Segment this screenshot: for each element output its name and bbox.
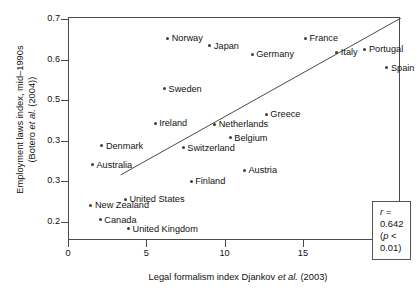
data-point-label: Italy	[341, 47, 358, 57]
data-point-label: Spain	[391, 63, 415, 73]
pvalue: (p < 0.01)	[380, 230, 403, 254]
correlation-value: r = 0.642	[380, 206, 403, 230]
x-tick-label: 5	[133, 248, 159, 258]
y-tick-mark	[61, 222, 68, 223]
data-point-label: Netherlands	[219, 119, 269, 129]
data-point-label: United Kingdom	[133, 224, 198, 234]
data-point-label: Sweden	[169, 84, 202, 94]
x-tick-mark	[303, 240, 304, 247]
x-axis-title: Legal formalism index Djankov et al. (20…	[68, 272, 408, 282]
x-tick-mark	[225, 240, 226, 247]
data-point	[251, 53, 254, 56]
y-tick-mark	[61, 181, 68, 182]
data-point-label: Norway	[172, 33, 203, 43]
x-tick-mark	[146, 240, 147, 247]
data-point	[190, 180, 193, 183]
x-tick-mark	[68, 240, 69, 247]
statistics-box: r = 0.642 (p < 0.01)	[372, 201, 411, 260]
data-point-label: New Zealand	[95, 200, 149, 210]
data-point-label: Japan	[214, 41, 239, 51]
y-tick-mark	[61, 60, 68, 61]
data-point-label: Germany	[256, 49, 294, 59]
y-axis-title-line1: Employment laws index, mid–1990s	[15, 15, 27, 225]
y-tick-label: 0.7	[36, 13, 60, 23]
data-point	[265, 113, 268, 116]
data-point-label: France	[309, 33, 338, 43]
y-tick-label: 0.2	[36, 216, 60, 226]
data-point	[229, 136, 232, 139]
data-point-label: Finland	[195, 176, 225, 186]
data-point-label: Greece	[270, 109, 300, 119]
data-point-label: Switzerland	[187, 143, 235, 153]
data-point	[243, 169, 246, 172]
x-tick-label: 15	[290, 248, 316, 258]
y-tick-label: 0.5	[36, 94, 60, 104]
data-point	[154, 122, 157, 125]
y-axis-title-line2: (Botero et al. (2004))	[27, 15, 39, 225]
y-tick-mark	[61, 19, 68, 20]
y-axis-title: Employment laws index, mid–1990s (Botero…	[15, 15, 38, 225]
y-tick-label: 0.6	[36, 54, 60, 64]
y-tick-mark	[61, 100, 68, 101]
data-point	[166, 37, 169, 40]
data-point	[304, 37, 307, 40]
data-point-label: Australia	[96, 160, 132, 170]
y-tick-mark	[61, 141, 68, 142]
plot-area: NorwayJapanFrancePortugalItalyGermanySpa…	[68, 17, 400, 240]
data-point-label: Belgium	[234, 133, 267, 143]
y-tick-label: 0.3	[36, 135, 60, 145]
data-point-label: Ireland	[159, 118, 187, 128]
x-tick-label: 10	[212, 248, 238, 258]
data-point-label: Austria	[248, 165, 277, 175]
scatter-plot-figure: Employment laws index, mid–1990s (Botero…	[0, 0, 420, 295]
y-tick-label: 0.3	[36, 175, 60, 185]
data-point-label: Denmark	[106, 141, 143, 151]
x-tick-label: 0	[55, 248, 81, 258]
data-point	[213, 123, 216, 126]
regression-line	[121, 18, 401, 175]
data-point-label: Portugal	[369, 44, 403, 54]
